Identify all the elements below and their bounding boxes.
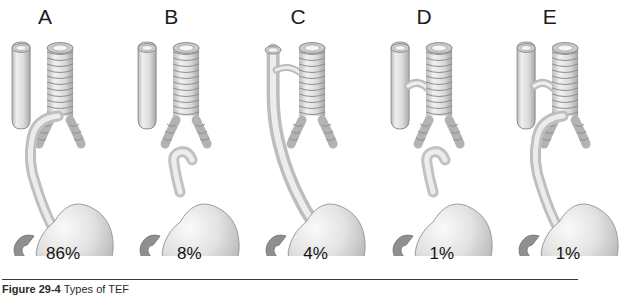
trachea-a [37, 43, 83, 144]
figure-caption: Figure 29-4 Types of TEF [2, 283, 622, 295]
panel-percentage-a: 86% [0, 245, 126, 262]
figure-tracheoesophageal-fistula-types: A [0, 0, 631, 295]
trachea-d [416, 43, 462, 144]
panel-e: E [505, 0, 631, 278]
panel-b: B [126, 0, 252, 278]
distal-esophagus-blind-pouch-d [426, 152, 444, 192]
trachea-e [542, 43, 588, 144]
distal-esophagus-blind-pouch-b [174, 152, 192, 192]
panel-percentage-b: 8% [126, 245, 252, 262]
panel-percentage-e: 1% [505, 245, 631, 262]
upper-esophagus-blind-pouch-b [138, 42, 156, 129]
anatomy-diagram-a [0, 24, 126, 256]
anatomy-diagram-d [379, 24, 505, 256]
upper-esophagus-blind-pouch-a [12, 42, 30, 129]
caption-text: Types of TEF [64, 283, 129, 295]
trachea-c [290, 43, 336, 144]
panel-percentage-d: 1% [379, 245, 505, 262]
panel-a: A [0, 0, 126, 278]
anatomy-diagram-e [505, 24, 631, 256]
caption-label: Figure 29-4 [2, 283, 61, 295]
panel-c: C [252, 0, 378, 278]
trachea-b [163, 43, 209, 144]
proximal-fistula-d [408, 83, 427, 88]
panel-percentage-c: 4% [252, 245, 378, 262]
anatomy-diagram-b [126, 24, 252, 256]
panel-row: A [0, 0, 631, 278]
h-type-fistula-c [277, 67, 300, 72]
caption-divider-rule [2, 279, 578, 280]
panel-d: D [379, 0, 505, 278]
anatomy-diagram-c [252, 24, 378, 256]
proximal-fistula-e [534, 83, 553, 88]
